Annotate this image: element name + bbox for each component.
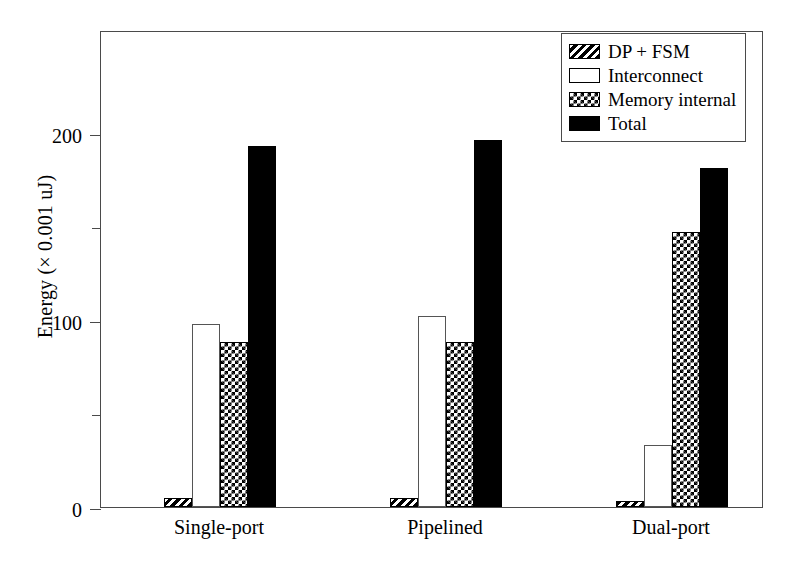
legend-label: DP + FSM [608, 42, 690, 61]
y-axis-tick-label: 0 [72, 499, 82, 522]
y-axis-title: Energy (× 0.001 uJ) [34, 107, 57, 407]
y-axis-minor-tick [92, 228, 101, 229]
bar-dp-fsm [616, 501, 644, 507]
y-axis-tick-label: 200 [52, 124, 82, 147]
bar-dp-fsm [390, 498, 418, 507]
legend-label: Total [608, 114, 647, 133]
legend-swatch-total-icon [569, 116, 600, 131]
energy-bar-chart-figure: Energy (× 0.001 uJ) 0100200 Single-portP… [0, 0, 803, 571]
chart-legend: DP + FSM Interconnect Memory internal To… [561, 33, 746, 142]
legend-item: Memory internal [569, 87, 736, 111]
bar-memory-internal [220, 342, 248, 507]
y-axis-major-tick: 0 [90, 509, 101, 510]
legend-item: DP + FSM [569, 39, 736, 63]
bar-interconnect [644, 445, 672, 507]
bar-total [700, 168, 728, 507]
y-axis-minor-tick [92, 415, 101, 416]
legend-swatch-memory-internal-icon [569, 92, 600, 107]
bar-interconnect [418, 316, 446, 507]
y-axis-tick-label: 100 [52, 311, 82, 334]
y-axis-major-tick: 100 [90, 322, 101, 323]
x-axis-tick-label: Pipelined [407, 516, 483, 539]
bar-memory-internal [446, 342, 474, 507]
legend-label: Memory internal [608, 90, 736, 109]
legend-swatch-interconnect-icon [569, 68, 600, 83]
legend-label: Interconnect [608, 66, 703, 85]
bar-total [474, 140, 502, 507]
bar-dp-fsm [164, 498, 192, 507]
x-axis-tick-label: Dual-port [632, 516, 710, 539]
bar-memory-internal [672, 232, 700, 507]
y-axis-major-tick: 200 [90, 135, 101, 136]
legend-item: Total [569, 111, 736, 135]
bar-total [248, 146, 276, 507]
legend-swatch-dp-fsm-icon [569, 44, 600, 59]
x-axis-tick-label: Single-port [174, 516, 264, 539]
legend-item: Interconnect [569, 63, 736, 87]
bar-interconnect [192, 324, 220, 507]
